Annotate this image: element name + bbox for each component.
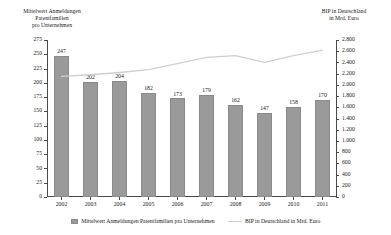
x-axis-year-label: 2003: [77, 201, 105, 207]
x-tick-mark: [322, 197, 323, 200]
right-tick-label: 2.400: [342, 60, 382, 66]
left-tick-label: 75: [2, 151, 42, 157]
x-axis-year-label: 2002: [48, 201, 76, 207]
left-tick-label: 225: [2, 66, 42, 72]
left-axis-title: Mittelwert Anmeldungen Patentfamilien pr…: [4, 8, 100, 30]
right-tick-label: 800: [342, 149, 382, 155]
x-axis-year-label: 2011: [309, 201, 337, 207]
x-axis-year-label: 2006: [164, 201, 192, 207]
gdp-line-series: [47, 40, 337, 197]
x-tick-mark: [264, 197, 265, 200]
legend-item-line: BIP in Deutschland in Mrd. Euro: [228, 218, 321, 225]
x-tick-mark: [148, 197, 149, 200]
left-tick-label: 150: [2, 108, 42, 114]
x-axis-year-label: 2009: [251, 201, 279, 207]
legend-label-bars: Mittelwert Anmeldungen Patentfamilien pr…: [81, 218, 214, 225]
right-tick-label: 2.800: [342, 37, 382, 43]
right-tick-label: 1.200: [342, 127, 382, 133]
right-tick-label: 600: [342, 160, 382, 166]
x-tick-mark: [177, 197, 178, 200]
left-tick-label: 0: [2, 194, 42, 200]
chart-container: Mittelwert Anmeldungen Patentfamilien pr…: [0, 0, 391, 235]
right-tick-label: 1.800: [342, 93, 382, 99]
right-tick-label: 2.600: [342, 48, 382, 54]
right-tick-label: 2.000: [342, 82, 382, 88]
right-axis-title: BIP in Deutschland in Mrd. Euro: [300, 8, 388, 22]
plot-area: 0255075100125150175200225250275 02004006…: [47, 40, 337, 197]
x-tick-mark: [293, 197, 294, 200]
bar-swatch-icon: [71, 219, 78, 225]
right-tick-label: 200: [342, 183, 382, 189]
right-tick-mark: [336, 197, 339, 198]
left-tick-mark: [44, 197, 47, 198]
right-tick-label: 1.600: [342, 104, 382, 110]
right-tick-label: 1.000: [342, 138, 382, 144]
x-tick-mark: [206, 197, 207, 200]
left-tick-label: 175: [2, 94, 42, 100]
left-tick-label: 250: [2, 51, 42, 57]
right-tick-label: 2.200: [342, 71, 382, 77]
left-tick-label: 25: [2, 180, 42, 186]
left-tick-label: 200: [2, 80, 42, 86]
left-tick-label: 50: [2, 166, 42, 172]
x-axis-year-label: 2010: [280, 201, 308, 207]
right-tick-label: 400: [342, 172, 382, 178]
x-axis-year-label: 2005: [135, 201, 163, 207]
legend-item-bars: Mittelwert Anmeldungen Patentfamilien pr…: [71, 218, 215, 225]
x-tick-mark: [61, 197, 62, 200]
x-axis-year-label: 2007: [193, 201, 221, 207]
x-axis-year-label: 2004: [106, 201, 134, 207]
legend-label-line: BIP in Deutschland in Mrd. Euro: [245, 218, 320, 225]
x-tick-mark: [90, 197, 91, 200]
right-tick-label: 1.400: [342, 116, 382, 122]
x-tick-mark: [119, 197, 120, 200]
x-tick-mark: [235, 197, 236, 200]
left-tick-label: 275: [2, 37, 42, 43]
line-swatch-icon: [228, 221, 242, 222]
x-axis-year-label: 2008: [222, 201, 250, 207]
chart-legend: Mittelwert Anmeldungen Patentfamilien pr…: [0, 218, 391, 225]
left-tick-label: 125: [2, 123, 42, 129]
left-tick-label: 100: [2, 137, 42, 143]
right-tick-label: 0: [342, 194, 382, 200]
